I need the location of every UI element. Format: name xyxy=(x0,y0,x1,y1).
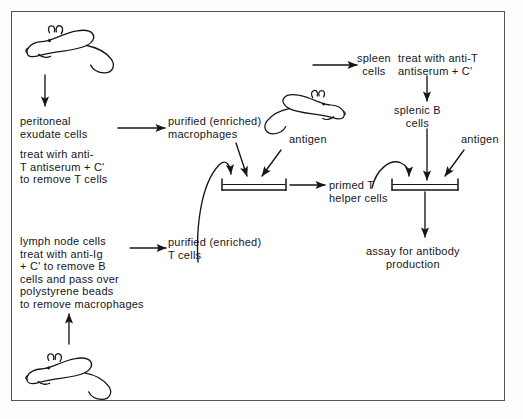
label-treat-anti-t-antiserum-right: treat with anti-T antiserum + C' xyxy=(398,52,478,77)
label-splenic-b-cells: splenic B cells xyxy=(394,104,441,129)
label-assay-antibody-production: assay for antibody production xyxy=(366,245,460,270)
label-spleen-cells: spleen cells xyxy=(357,52,391,77)
label-purified-t-cells: purified (enriched) T cells xyxy=(168,236,261,261)
label-purified-macrophages: purified (enriched) macrophages xyxy=(168,115,261,140)
label-antigen-right: antigen xyxy=(461,133,499,146)
label-antigen-left: antigen xyxy=(289,133,327,146)
figure-canvas: peritoneal exudate cells treat wirh anti… xyxy=(0,0,523,419)
label-primed-t-helper-cells: primed T helper cells xyxy=(329,179,388,204)
label-treat-anti-t-antiserum: treat wirh anti- T antiserum + C' to rem… xyxy=(20,148,108,186)
label-peritoneal-exudate-cells: peritoneal exudate cells xyxy=(20,115,87,140)
label-lymph-node-cells-protocol: lymph node cells treat with anti-Ig + C'… xyxy=(20,235,144,311)
